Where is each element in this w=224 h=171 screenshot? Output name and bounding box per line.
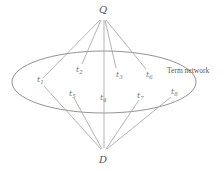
term-t8: t8 — [171, 87, 178, 97]
term-t7: t7 — [137, 91, 144, 101]
edge-q-t1 — [43, 20, 100, 78]
term-t3: t3 — [116, 70, 123, 80]
query-node-label: Q — [99, 4, 107, 15]
edge-d-t7 — [106, 100, 139, 149]
document-edges — [44, 86, 171, 149]
edge-q-t3 — [105, 20, 116, 68]
term-labels: t1 t2 t3 t6 t5 t4 t7 t8 — [37, 65, 178, 103]
term-t1: t1 — [37, 75, 44, 85]
query-edges — [43, 20, 146, 148]
term-network-diagram: Q D t1 t2 t3 t6 t5 t4 t7 t8 Term network — [0, 0, 224, 171]
term-t5: t5 — [69, 89, 76, 99]
term-network-label: Term network — [167, 66, 209, 75]
term-t6: t6 — [146, 70, 153, 80]
edge-q-t2 — [82, 20, 101, 64]
edge-q-t6 — [106, 20, 146, 69]
term-t2: t2 — [76, 65, 83, 75]
edge-d-t8 — [107, 97, 171, 149]
document-node-label: D — [98, 154, 107, 165]
